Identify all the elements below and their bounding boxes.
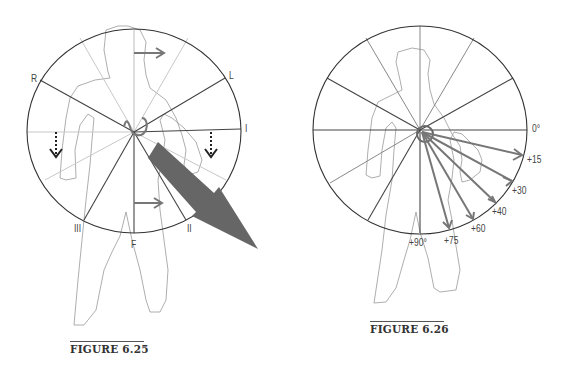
horizontal-arrow-bottom-icon xyxy=(134,198,162,208)
angle-label-15: +15 xyxy=(527,155,541,165)
figure-6-26-diagram xyxy=(313,26,527,303)
horizontal-arrow-top-icon xyxy=(134,48,164,58)
angle-vectors xyxy=(422,132,522,228)
dotted-down-arrow-right-icon xyxy=(205,132,217,157)
caption-figure-625: FIGURE 6.25 xyxy=(70,343,149,355)
caption-figure-626: FIGURE 6.26 xyxy=(370,323,449,335)
lead-label-r: R xyxy=(31,74,37,84)
lead-label-l: L xyxy=(229,71,234,81)
lead-label-ii: II xyxy=(187,224,192,234)
angle-label-0: 0° xyxy=(532,124,540,134)
caption-rule-626 xyxy=(370,321,444,322)
lead-label-iii: III xyxy=(74,224,81,234)
figure-6-25-diagram xyxy=(27,26,258,325)
mean-vector-large-arrow xyxy=(148,142,258,249)
angle-label-75: +75 xyxy=(444,236,458,246)
dotted-down-arrow-left-icon xyxy=(50,132,62,157)
angle-label-60: +60 xyxy=(471,224,485,234)
caption-rule-625 xyxy=(70,341,144,342)
angle-label-90: +90° xyxy=(409,238,427,248)
body-outline xyxy=(366,48,482,303)
figures-canvas xyxy=(0,0,562,371)
lead-label-i: I xyxy=(245,124,247,134)
lead-label-f: F xyxy=(131,240,136,250)
angle-label-30: +30 xyxy=(512,186,526,196)
angle-label-40: +40 xyxy=(492,207,506,217)
